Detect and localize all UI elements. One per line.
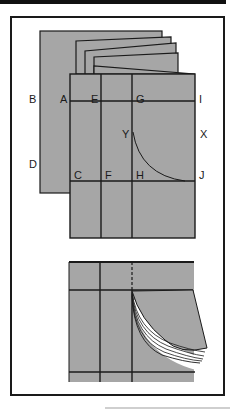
label-h: H — [136, 169, 144, 181]
label-g: G — [136, 93, 145, 105]
label-d: D — [29, 158, 37, 170]
bottom-diagram — [69, 262, 207, 382]
bottom-rule — [105, 407, 230, 409]
label-b: B — [29, 93, 36, 105]
label-y: Y — [122, 128, 130, 140]
top-diagram: B A E G I Y X D C F H J — [29, 31, 208, 238]
label-a: A — [60, 93, 68, 105]
label-i: I — [199, 93, 202, 105]
label-e: E — [91, 93, 98, 105]
label-f: F — [105, 169, 112, 181]
label-x: X — [200, 128, 208, 140]
folding-diagram: B A E G I Y X D C F H J — [0, 0, 242, 410]
label-j: J — [199, 169, 205, 181]
label-c: C — [74, 169, 82, 181]
